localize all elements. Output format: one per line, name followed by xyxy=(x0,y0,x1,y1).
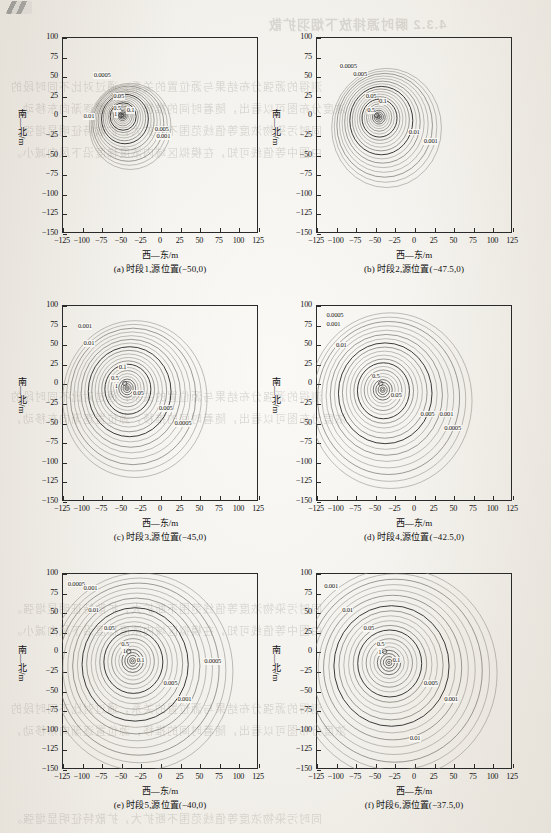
y-tick-mark xyxy=(317,731,321,732)
y-tick-label: 50 xyxy=(34,71,58,80)
x-tick-label: 25 xyxy=(420,772,448,781)
y-tick-label: −50 xyxy=(34,150,58,159)
source-marker xyxy=(119,113,123,117)
y-tick-label: −150 xyxy=(34,228,58,237)
x-tick-mark xyxy=(102,496,103,500)
x-tick-label: −75 xyxy=(341,236,369,245)
contour-ring xyxy=(66,324,201,471)
panel-caption-a: (a) 时段1,源位置(−50,0) xyxy=(22,262,298,275)
contour-label: 0.5 xyxy=(376,641,385,648)
contour-lines-f xyxy=(316,573,512,769)
y-tick-label: −50 xyxy=(288,150,312,159)
contour-ring xyxy=(77,603,194,728)
contour-ring xyxy=(362,634,417,691)
x-tick-label: −100 xyxy=(68,772,96,781)
contour-label: 0.05 xyxy=(390,392,402,399)
contour-ring xyxy=(95,622,172,704)
y-tick-mark xyxy=(63,384,67,385)
y-tick-label: −100 xyxy=(288,725,312,734)
y-tick-label: 50 xyxy=(288,339,312,348)
y-tick-mark xyxy=(63,613,67,614)
x-tick-label: −25 xyxy=(126,504,154,513)
y-tick-mark xyxy=(317,613,321,614)
x-tick-label: 125 xyxy=(244,772,272,781)
contour-panel-e: 1007550250−25−50−75−100−125−150−125−100−… xyxy=(0,0,551,833)
x-tick-label: −100 xyxy=(68,236,96,245)
x-tick-label: 125 xyxy=(244,504,272,513)
contour-ring xyxy=(107,99,141,135)
y-tick-mark xyxy=(63,692,67,693)
contour-lines-e xyxy=(62,573,258,769)
contour-label: 0.001 xyxy=(444,696,459,703)
y-tick-mark xyxy=(317,463,321,464)
contour-label: 0.001 xyxy=(324,583,339,590)
panel-caption-d: (d) 时段4,源位置(−42.5,0) xyxy=(276,530,551,543)
y-tick-label: 0 xyxy=(34,378,58,387)
x-tick-mark xyxy=(356,496,357,500)
y-tick-mark xyxy=(317,633,321,634)
contour-ring xyxy=(116,376,138,400)
contour-ring xyxy=(58,583,219,755)
x-tick-label: −75 xyxy=(87,772,115,781)
contour-label: 0.1 xyxy=(136,657,145,664)
contour-ring xyxy=(74,332,191,459)
contour-label: 0.05 xyxy=(365,93,377,100)
contour-ring xyxy=(366,639,412,687)
contour-ring xyxy=(127,655,137,666)
contour-ring xyxy=(342,79,424,168)
contour-ring xyxy=(373,380,392,400)
contour-ring xyxy=(53,578,226,763)
x-tick-mark xyxy=(122,496,123,500)
x-tick-label: 25 xyxy=(166,504,194,513)
y-tick-label: −50 xyxy=(288,418,312,427)
y-tick-label: 0 xyxy=(288,378,312,387)
y-tick-mark xyxy=(317,97,321,98)
contour-ring xyxy=(377,650,400,675)
contour-ring xyxy=(380,387,385,392)
contour-ring xyxy=(334,71,437,182)
y-tick-label: −125 xyxy=(34,208,58,217)
contour-ring xyxy=(370,377,395,404)
contour-ring xyxy=(350,86,413,154)
contour-ring xyxy=(353,625,426,702)
x-tick-label: 100 xyxy=(224,772,252,781)
y-tick-label: 75 xyxy=(288,320,312,329)
x-tick-mark xyxy=(181,764,182,768)
x-tick-mark xyxy=(474,764,475,768)
y-tick-label: −125 xyxy=(288,744,312,753)
y-tick-label: 100 xyxy=(34,300,58,309)
y-tick-mark xyxy=(317,652,321,653)
contour-label: 0.001 xyxy=(156,133,171,140)
x-tick-label: 0 xyxy=(146,504,174,513)
y-tick-mark xyxy=(317,58,321,59)
x-tick-mark xyxy=(474,496,475,500)
x-tick-label: 75 xyxy=(205,504,233,513)
x-tick-mark xyxy=(435,496,436,500)
y-tick-label: −25 xyxy=(34,398,58,407)
x-tick-mark xyxy=(102,764,103,768)
contour-ring xyxy=(93,86,164,161)
y-tick-label: 0 xyxy=(34,110,58,119)
contour-label: 0.0005 xyxy=(93,72,111,79)
y-axis-title-d: 南—北/m xyxy=(270,377,283,414)
contour-label: 0.01 xyxy=(409,735,421,742)
contour-panel-d: 1007550250−25−50−75−100−125−150−125−100−… xyxy=(0,0,551,833)
x-tick-label: 75 xyxy=(459,504,487,513)
y-tick-label: 25 xyxy=(288,359,312,368)
y-tick-mark xyxy=(317,195,321,196)
contour-label: 0.5 xyxy=(372,373,381,380)
x-tick-mark xyxy=(141,496,142,500)
contour-ring xyxy=(104,630,163,693)
contour-ring xyxy=(378,385,387,395)
contour-ring xyxy=(119,112,126,119)
y-tick-label: 75 xyxy=(34,588,58,597)
y-tick-label: −125 xyxy=(34,744,58,753)
y-tick-label: −75 xyxy=(288,437,312,446)
x-tick-mark xyxy=(220,496,221,500)
contour-ring xyxy=(70,328,196,465)
contour-ring xyxy=(125,386,129,391)
y-tick-mark xyxy=(63,443,67,444)
contour-label: 0.005 xyxy=(423,680,438,687)
y-tick-mark xyxy=(63,750,67,751)
y-tick-mark xyxy=(317,326,321,327)
